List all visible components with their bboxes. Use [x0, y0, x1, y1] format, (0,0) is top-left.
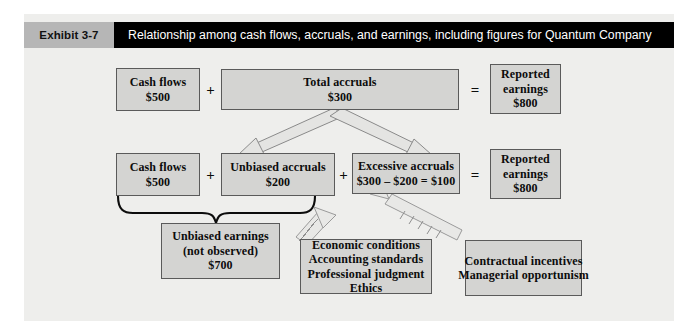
exhibit-diagram: Exhibit 3-7 Relationship among cash flow… — [0, 0, 698, 336]
box-excessive-accruals: Excessive accruals $300 – $200 = $100 — [352, 153, 460, 194]
total-accruals-value: $300 — [328, 90, 352, 104]
excessive-accruals-value: $300 – $200 = $100 — [357, 174, 456, 188]
box-unbiased-accruals: Unbiased accruals $200 — [221, 153, 335, 196]
unbiased-accruals-label: Unbiased accruals — [230, 160, 325, 174]
cash-flows-row1-value: $500 — [146, 90, 170, 104]
operator-plus-row2-second: + — [335, 167, 352, 184]
box-total-accruals: Total accruals $300 — [221, 69, 459, 110]
box-unbiased-earnings: Unbiased earnings (not observed) $700 — [161, 223, 280, 279]
cash-flows-row2-value: $500 — [146, 175, 170, 189]
unbiased-earnings-line1: Unbiased earnings — [172, 229, 269, 243]
box-excessive-factors: Contractual incentives Managerial opport… — [465, 240, 582, 296]
reported-earnings-row1-line2: earnings — [503, 82, 548, 96]
cash-flows-row2-label: Cash flows — [130, 160, 187, 174]
box-cash-flows-row2: Cash flows $500 — [116, 153, 200, 196]
box-unbiased-factors: Economic conditions Accounting standards… — [300, 239, 432, 294]
box-reported-earnings-row2: Reported earnings $800 — [490, 149, 561, 199]
unbiased-factors-line1: Economic conditions — [312, 238, 420, 252]
operator-plus-row2-first: + — [200, 167, 221, 184]
excessive-factors-line2: Managerial opportunism — [458, 268, 589, 282]
reported-earnings-row1-value: $800 — [513, 96, 537, 110]
operator-plus-row1: + — [200, 82, 221, 99]
exhibit-title-text: Relationship among cash flows, accruals,… — [114, 28, 652, 42]
reported-earnings-row2-line1: Reported — [501, 152, 550, 166]
exhibit-number-tab: Exhibit 3-7 — [24, 22, 114, 48]
reported-earnings-row1-line1: Reported — [501, 67, 550, 81]
exhibit-title-bar: Relationship among cash flows, accruals,… — [114, 22, 674, 48]
box-cash-flows-row1: Cash flows $500 — [116, 68, 200, 111]
unbiased-factors-line4: Ethics — [350, 281, 383, 295]
exhibit-number-label: Exhibit 3-7 — [39, 29, 98, 41]
unbiased-earnings-line2: (not observed) — [183, 244, 258, 258]
unbiased-factors-line3: Professional judgment — [308, 267, 425, 281]
cash-flows-row1-label: Cash flows — [130, 75, 187, 89]
operator-equals-row1: = — [460, 82, 490, 99]
reported-earnings-row2-line2: earnings — [503, 167, 548, 181]
total-accruals-label: Total accruals — [303, 75, 376, 89]
unbiased-factors-line2: Accounting standards — [309, 252, 423, 266]
box-reported-earnings-row1: Reported earnings $800 — [490, 64, 561, 114]
unbiased-earnings-value: $700 — [208, 258, 232, 272]
reported-earnings-row2-value: $800 — [513, 181, 537, 195]
excessive-factors-line1: Contractual incentives — [465, 254, 583, 268]
operator-equals-row2: = — [460, 167, 490, 184]
excessive-accruals-label: Excessive accruals — [358, 159, 454, 173]
unbiased-accruals-value: $200 — [266, 175, 290, 189]
